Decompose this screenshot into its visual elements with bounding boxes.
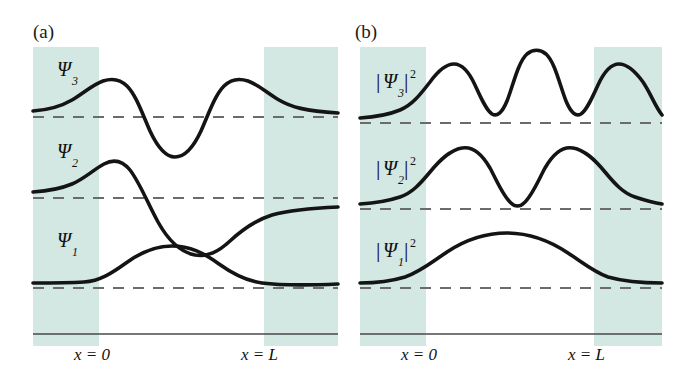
svg-text:3: 3: [397, 86, 404, 100]
svg-text:Ψ: Ψ: [383, 70, 399, 92]
finite-well-figure: (a) Ψ 3 Ψ 2 Ψ 1 x = 0 x =: [0, 0, 691, 387]
svg-text:2: 2: [410, 67, 416, 81]
svg-text:Ψ: Ψ: [57, 140, 73, 162]
bar-right-3: |: [404, 68, 408, 93]
svg-text:3: 3: [71, 74, 78, 88]
bar-left-1: |: [376, 237, 380, 262]
svg-text:Ψ: Ψ: [57, 58, 73, 80]
panel-b-x0-label: x = 0: [400, 345, 438, 364]
svg-text:1: 1: [72, 245, 78, 259]
panel-b-tag: (b): [355, 21, 377, 43]
panel-a-tag: (a): [33, 21, 54, 43]
bar-left-2: |: [376, 155, 380, 180]
panel-b-xL-label: x = L: [567, 345, 605, 364]
bar-right-2: |: [404, 155, 408, 180]
svg-text:2: 2: [410, 236, 416, 250]
panel-a-left-barrier: [33, 47, 99, 346]
bar-right-1: |: [404, 237, 408, 262]
svg-text:2: 2: [72, 156, 78, 170]
panel-a-x0-label: x = 0: [73, 345, 111, 364]
svg-text:Ψ: Ψ: [383, 157, 399, 179]
panel-a-xL-label: x = L: [240, 345, 278, 364]
svg-text:Ψ: Ψ: [383, 239, 399, 261]
svg-text:2: 2: [410, 154, 416, 168]
panel-b-right-barrier: [594, 47, 662, 346]
svg-text:Ψ: Ψ: [57, 229, 73, 251]
figure-background: [0, 0, 691, 387]
panel-a-right-barrier: [264, 47, 338, 346]
bar-left-3: |: [376, 68, 380, 93]
